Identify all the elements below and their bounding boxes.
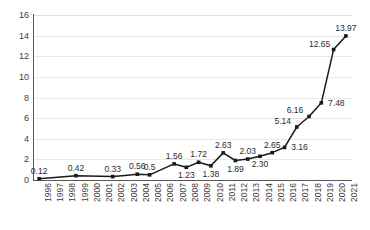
data-point-label: 3.16 [291,142,308,152]
data-point-marker [283,146,287,150]
data-point-marker [307,115,311,119]
data-point-marker [344,34,348,38]
data-point-marker [295,125,299,129]
data-point-label: 12.65 [309,39,330,49]
data-point-marker [209,164,213,168]
data-point-marker [37,177,41,181]
data-point-label: 0.42 [68,163,85,173]
data-point-label: 13.97 [335,23,356,33]
data-point-label: 1.23 [178,170,195,180]
series-line-layer [0,0,370,230]
data-point-marker [172,162,176,166]
data-point-marker [185,166,189,170]
data-point-marker [148,173,152,177]
data-point-label: 1.38 [203,169,220,179]
data-point-label: 2.03 [239,146,256,156]
data-point-label: 0.5 [144,162,156,172]
data-point-label: 0.12 [31,166,48,176]
data-point-marker [332,48,336,52]
data-point-marker [246,157,250,161]
line-chart: 0246810121416 19961997199819992000200120… [0,0,370,230]
data-point-marker [270,151,274,155]
data-point-label: 2.30 [252,159,269,169]
data-point-label: 7.48 [328,98,345,108]
data-point-marker [111,175,115,179]
data-point-marker [258,154,262,158]
data-point-marker [197,160,201,164]
data-point-marker [221,151,225,155]
data-point-label: 1.89 [227,164,244,174]
data-point-label: 2.65 [264,140,281,150]
data-point-label: 2.63 [215,140,232,150]
data-point-marker [135,172,139,176]
data-point-marker [320,101,324,105]
data-point-marker [74,174,78,178]
data-point-label: 0.33 [104,164,121,174]
data-point-label: 1.56 [166,151,183,161]
data-point-marker [234,159,238,163]
data-point-label: 1.72 [190,149,207,159]
data-point-label: 6.16 [287,105,304,115]
data-point-label: 5.14 [275,116,292,126]
